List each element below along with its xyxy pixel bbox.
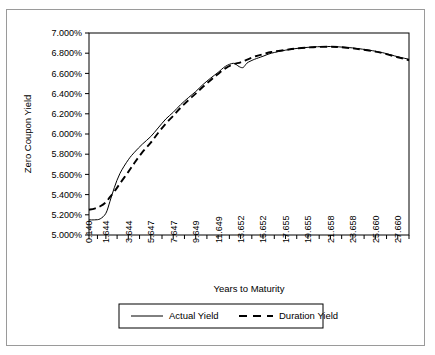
y-axis-title: Zero Coupon Yield: [22, 95, 33, 174]
x-axis-tick-group: [89, 235, 409, 239]
x-tick-label: 25.660: [371, 215, 381, 243]
y-tick-label: 5.200%: [51, 210, 82, 220]
legend-label-actual-yield: Actual Yield: [169, 310, 219, 321]
x-axis-label-group: 0.1401.6443.6445.6477.6479.64911.64913.6…: [84, 215, 403, 243]
x-tick-label: 17.655: [281, 215, 291, 243]
series-line-actual-yield: [89, 47, 409, 220]
x-tick-label: 21.658: [326, 215, 336, 243]
y-tick-label: 5.600%: [51, 170, 82, 180]
x-tick-label: 13.652: [236, 215, 246, 243]
y-tick-label: 5.800%: [51, 149, 82, 159]
series-line-duration-yield: [89, 47, 409, 210]
x-tick-label: 19.655: [303, 215, 313, 243]
y-tick-label: 6.200%: [51, 109, 82, 119]
x-tick-label: 5.647: [146, 220, 156, 243]
y-tick-label: 6.400%: [51, 89, 82, 99]
x-tick-label: 11.649: [214, 216, 224, 243]
x-tick-label: 0.140: [84, 220, 94, 243]
chart-figure: 5.000%5.200%5.400%5.600%5.800%6.000%6.20…: [6, 9, 425, 346]
x-tick-label: 3.644: [124, 220, 134, 243]
legend-label-duration-yield: Duration Yield: [279, 310, 338, 321]
y-tick-label: 6.800%: [51, 48, 82, 58]
y-tick-label: 6.000%: [51, 129, 82, 139]
y-axis-tick-group: [85, 33, 89, 235]
plot-area-frame: [89, 33, 409, 235]
y-axis-label-group: 5.000%5.200%5.400%5.600%5.800%6.000%6.20…: [51, 28, 82, 240]
x-tick-label: 1.644: [101, 220, 111, 243]
x-tick-label: 27.660: [393, 215, 403, 243]
x-tick-label: 15.652: [258, 215, 268, 243]
chart-legend: Actual Yield Duration Yield: [119, 304, 338, 328]
y-tick-label: 5.400%: [51, 190, 82, 200]
y-tick-label: 5.000%: [51, 230, 82, 240]
x-tick-label: 7.647: [169, 220, 179, 243]
y-tick-label: 7.000%: [51, 28, 82, 38]
x-tick-label: 9.649: [191, 220, 201, 243]
zero-coupon-yield-line-chart: 5.000%5.200%5.400%5.600%5.800%6.000%6.20…: [7, 10, 424, 345]
y-tick-label: 6.600%: [51, 69, 82, 79]
x-axis-title: Years to Maturity: [214, 283, 285, 294]
x-tick-label: 23.658: [348, 215, 358, 243]
